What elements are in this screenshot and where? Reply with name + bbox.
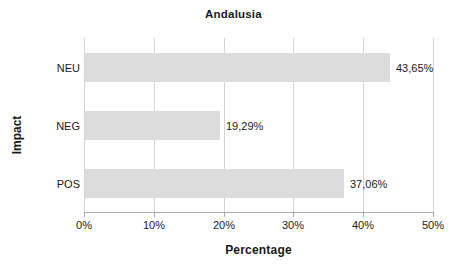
- bar-chart: Andalusia Impact NEUNEGPOS 43,65%19,29%3…: [0, 0, 467, 271]
- bar-neg[interactable]: [85, 111, 220, 140]
- y-tick-label: NEG: [6, 120, 80, 132]
- x-tick-mark: [154, 213, 155, 217]
- x-tick-label: 50%: [408, 219, 458, 231]
- x-tick-label: 10%: [129, 219, 179, 231]
- bar-neu[interactable]: [85, 53, 390, 82]
- bar-value-label: 43,65%: [396, 62, 433, 74]
- y-tick-label: NEU: [6, 62, 80, 74]
- y-tick-label: POS: [6, 178, 80, 190]
- x-tick-mark: [433, 213, 434, 217]
- x-tick-mark: [84, 213, 85, 217]
- bar-pos[interactable]: [85, 169, 344, 198]
- x-tick-label: 20%: [199, 219, 249, 231]
- x-tick-mark: [293, 213, 294, 217]
- bar-value-label: 37,06%: [350, 178, 387, 190]
- bar-value-label: 19,29%: [226, 120, 263, 132]
- x-tick-label: 0%: [59, 219, 109, 231]
- x-tick-mark: [224, 213, 225, 217]
- plot-area: 43,65%19,29%37,06%: [84, 38, 433, 212]
- x-tick-label: 30%: [268, 219, 318, 231]
- x-tick-mark: [363, 213, 364, 217]
- x-axis-title: Percentage: [84, 243, 433, 257]
- x-tick-label: 40%: [338, 219, 388, 231]
- x-axis-line: [84, 212, 434, 213]
